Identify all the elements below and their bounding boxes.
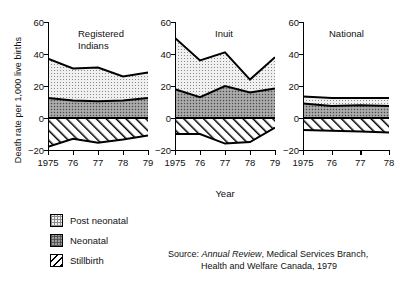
y-tick-labels: 6040200−20 <box>48 22 49 150</box>
x-tick <box>303 150 304 155</box>
x-tick <box>275 150 276 155</box>
legend-item: Stillbirth <box>50 252 128 269</box>
legend-swatch-dots-light <box>50 214 63 227</box>
x-tick-label: 78 <box>118 157 129 168</box>
source-title: Annual Review <box>202 249 262 259</box>
y-tick-label: 20 <box>33 81 44 92</box>
x-tick <box>175 150 176 155</box>
x-tick <box>73 150 74 155</box>
x-tick-label: 76 <box>68 157 79 168</box>
plot-area <box>48 22 148 150</box>
y-tick-label: 0 <box>39 113 44 124</box>
x-tick <box>332 150 333 155</box>
figure-root: Death rate per 1,000 live births Registe… <box>0 0 415 285</box>
y-tick-label: −20 <box>28 145 44 156</box>
source-prefix: Source: <box>168 249 199 259</box>
panel-chart-svg <box>303 22 389 150</box>
x-tick-label: 1975 <box>164 157 185 168</box>
source-line2: Health and Welfare Canada, 1979 <box>201 260 368 272</box>
plot-area <box>175 22 275 150</box>
y-tick-label: 20 <box>288 81 299 92</box>
x-tick <box>98 150 99 155</box>
y-tick-labels: 6040200−20 <box>175 22 176 150</box>
legend-label: Neonatal <box>70 235 108 246</box>
legend-swatch-dots-dark <box>50 234 63 247</box>
y-tick-label: 60 <box>33 17 44 28</box>
x-tick-label: 76 <box>326 157 337 168</box>
panel-inuit: Inuit 6040200−20 19 <box>175 22 275 172</box>
legend-label: Stillbirth <box>70 255 104 266</box>
legend-swatch-hatch <box>50 254 63 267</box>
legend: Post neonatalNeonatalStillbirth <box>50 212 128 272</box>
area-stillbirth <box>175 118 275 144</box>
x-tick-label: 77 <box>93 157 104 168</box>
x-tick <box>360 150 361 155</box>
x-tick-label: 77 <box>220 157 231 168</box>
x-tick-label: 1975 <box>292 157 313 168</box>
source-rest: , Medical Services Branch, <box>262 249 369 259</box>
plot-area <box>303 22 389 150</box>
x-tick <box>225 150 226 155</box>
panel-chart-svg <box>175 22 275 150</box>
y-tick-label: −20 <box>283 145 299 156</box>
x-axis <box>303 150 389 151</box>
x-tick-label: 1975 <box>37 157 58 168</box>
y-tick-labels: 6040200−20 <box>303 22 304 150</box>
y-tick-label: 40 <box>33 49 44 60</box>
x-tick <box>148 150 149 155</box>
y-tick-label: 0 <box>294 113 299 124</box>
y-tick-label: 40 <box>288 49 299 60</box>
panel-national: National 6040200−20 <box>303 22 389 172</box>
line-total <box>303 96 389 98</box>
x-tick <box>389 150 390 155</box>
y-tick-label: −20 <box>155 145 171 156</box>
y-tick-label: 20 <box>160 81 171 92</box>
panel-registered-indians: Registered Indians 6 <box>48 22 148 172</box>
x-axis-title: Year <box>175 188 275 199</box>
x-tick <box>123 150 124 155</box>
x-tick-label: 77 <box>355 157 366 168</box>
x-tick-label: 79 <box>270 157 281 168</box>
y-tick-label: 0 <box>166 113 171 124</box>
legend-label: Post neonatal <box>70 215 128 226</box>
x-tick-label: 78 <box>384 157 395 168</box>
x-tick <box>200 150 201 155</box>
x-tick-label: 78 <box>245 157 256 168</box>
legend-item: Post neonatal <box>50 212 128 229</box>
x-tick <box>250 150 251 155</box>
y-tick-label: 40 <box>160 49 171 60</box>
source-note: Source: Annual Review, Medical Services … <box>168 248 368 272</box>
x-tick-label: 79 <box>143 157 154 168</box>
x-tick <box>48 150 49 155</box>
y-tick-label: 60 <box>288 17 299 28</box>
legend-item: Neonatal <box>50 232 128 249</box>
panel-chart-svg <box>48 22 148 150</box>
y-axis-title: Death rate per 1,000 live births <box>13 20 23 180</box>
x-tick-label: 76 <box>195 157 206 168</box>
y-tick-label: 60 <box>160 17 171 28</box>
